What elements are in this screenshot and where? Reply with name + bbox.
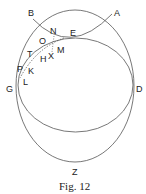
label-P: P <box>17 64 23 74</box>
geometric-figure: B A N E O M T H X P K L G D Z Fig. 12 <box>0 0 146 194</box>
label-N: N <box>50 26 57 36</box>
figure-caption: Fig. 12 <box>59 180 90 192</box>
label-M: M <box>57 45 65 55</box>
label-H: H <box>40 54 47 64</box>
label-T: T <box>27 49 33 59</box>
dotted-segment-NX <box>52 36 54 52</box>
label-D: D <box>136 84 143 94</box>
label-E: E <box>70 28 76 38</box>
label-Z: Z <box>72 167 78 177</box>
label-X: X <box>48 51 54 61</box>
label-A: A <box>114 8 120 18</box>
label-L: L <box>23 77 28 87</box>
inner-circle <box>18 38 133 132</box>
label-G: G <box>6 84 13 94</box>
label-K: K <box>28 66 34 76</box>
label-B: B <box>28 8 34 18</box>
label-O: O <box>39 36 46 46</box>
